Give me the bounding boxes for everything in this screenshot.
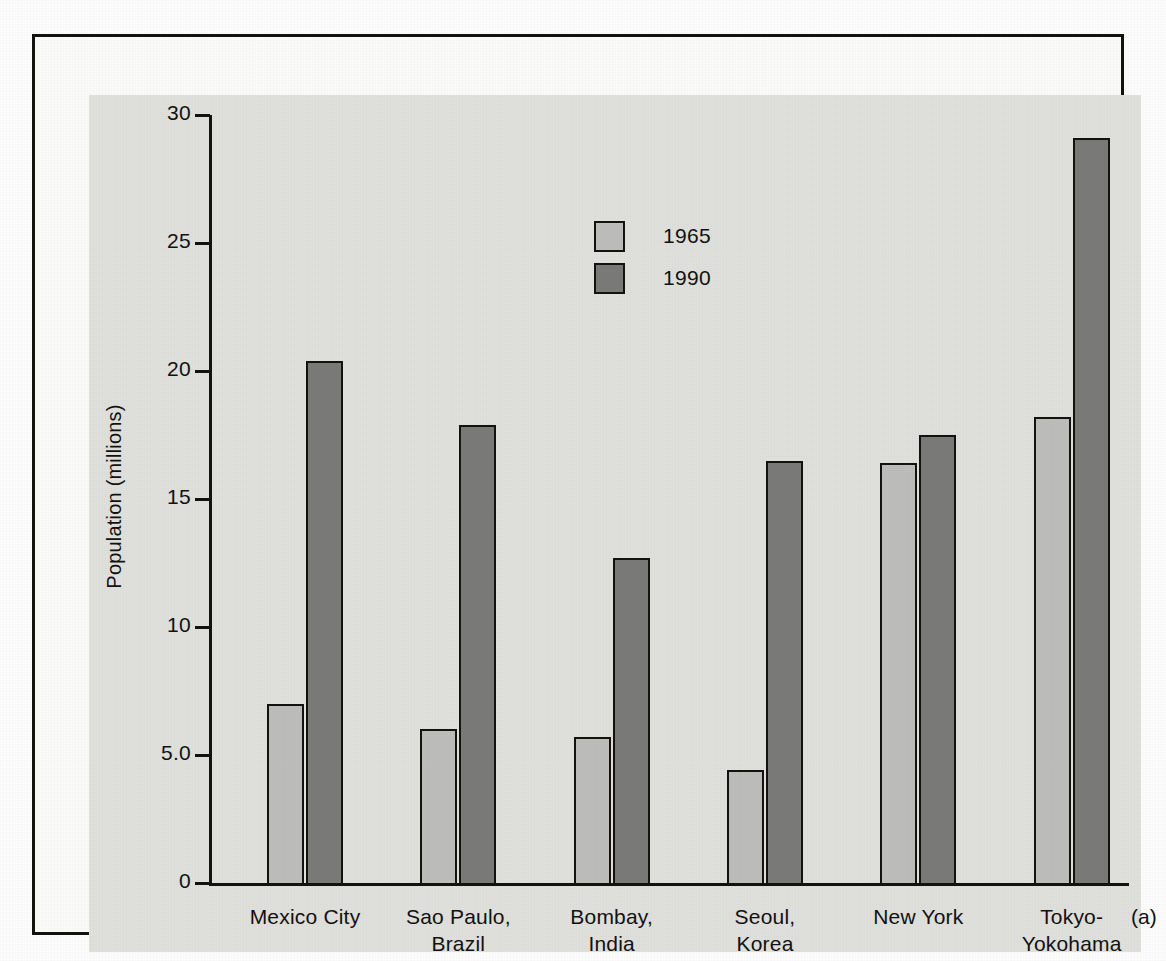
- legend-swatch-1965: [594, 221, 625, 252]
- bar: [613, 558, 650, 885]
- bar: [1073, 138, 1110, 885]
- y-tick-label-30: 30: [131, 101, 191, 125]
- y-axis-title: Population (millions): [103, 267, 126, 727]
- bar: [306, 361, 343, 885]
- y-tick-30: [195, 114, 210, 117]
- bar: [1034, 417, 1071, 885]
- plot-panel: 05.01015202530 Population (millions) Mex…: [89, 95, 1141, 952]
- y-tick-15: [195, 498, 210, 501]
- y-tick-label-5.0: 5.0: [131, 741, 191, 765]
- bar: [727, 770, 764, 885]
- x-axis-label: Sao Paulo, Brazil: [382, 903, 535, 957]
- bar: [459, 425, 496, 885]
- y-tick-25: [195, 242, 210, 245]
- y-tick-label-25: 25: [131, 229, 191, 253]
- legend-item-1965: 1965: [594, 215, 711, 257]
- x-axis-label: Seoul, Korea: [688, 903, 841, 957]
- chart-legend: 1965 1990: [594, 215, 711, 299]
- panel-letter: (a): [1131, 905, 1157, 929]
- bar: [880, 463, 917, 885]
- x-axis-label: Mexico City: [228, 903, 381, 930]
- y-tick-5.0: [195, 754, 210, 757]
- legend-label-1990: 1990: [663, 266, 711, 290]
- bar: [574, 737, 611, 885]
- x-axis-label: Tokyo- Yokohama: [995, 903, 1148, 957]
- y-tick-label-0: 0: [131, 869, 191, 893]
- x-axis-label: Bombay, India: [535, 903, 688, 957]
- x-axis-line: [209, 883, 1129, 886]
- figure-page: 05.01015202530 Population (millions) Mex…: [0, 0, 1166, 961]
- x-axis-label: New York: [842, 903, 995, 930]
- bar: [420, 729, 457, 885]
- bar: [267, 704, 304, 885]
- bar: [919, 435, 956, 885]
- bar: [766, 461, 803, 885]
- y-tick-label-20: 20: [131, 357, 191, 381]
- y-tick-label-15: 15: [131, 485, 191, 509]
- legend-label-1965: 1965: [663, 224, 711, 248]
- legend-swatch-1990: [594, 263, 625, 294]
- figure-frame: 05.01015202530 Population (millions) Mex…: [32, 34, 1124, 935]
- y-tick-label-10: 10: [131, 613, 191, 637]
- legend-item-1990: 1990: [594, 257, 711, 299]
- y-tick-0: [195, 882, 210, 885]
- y-tick-20: [195, 370, 210, 373]
- y-tick-10: [195, 626, 210, 629]
